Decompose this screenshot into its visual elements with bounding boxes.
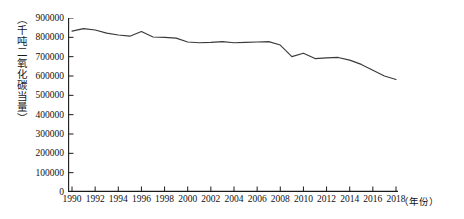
x-tick-label: 2010	[294, 194, 313, 204]
x-tick-label: 2008	[271, 194, 290, 204]
x-tick-label: 2016	[363, 194, 382, 204]
y-tick-label: 700000	[36, 52, 65, 62]
x-tick-label: 2004	[225, 194, 244, 204]
x-tick-label: 2002	[201, 194, 220, 204]
y-axis-ticks	[69, 18, 74, 173]
axis-lines	[69, 18, 398, 191]
x-axis-tick-labels: 1990199219941996199820002002200420062008…	[0, 194, 464, 210]
chart-svg	[68, 18, 398, 192]
x-tick-label: 1994	[109, 194, 128, 204]
y-tick-label: 500000	[36, 90, 65, 100]
y-tick-label: 300000	[36, 129, 65, 139]
x-axis-title: （年份）	[399, 194, 439, 208]
y-tick-label: 400000	[36, 110, 65, 120]
x-tick-label: 2000	[178, 194, 197, 204]
y-tick-label: 900000	[36, 13, 65, 23]
y-tick-label: 800000	[36, 32, 65, 42]
y-tick-label: 100000	[36, 168, 65, 178]
y-axis-tick-labels: 0100000200000300000400000500000600000700…	[0, 18, 64, 192]
x-tick-label: 2012	[317, 194, 336, 204]
x-tick-label: 1992	[86, 194, 105, 204]
chart-container: （千吨二氧化碳当量） 01000002000003000004000005000…	[0, 0, 464, 219]
y-tick-label: 200000	[36, 148, 65, 158]
x-tick-label: 2006	[248, 194, 267, 204]
y-tick-label: 600000	[36, 71, 65, 81]
x-tick-label: 2014	[340, 194, 359, 204]
x-tick-label: 1998	[155, 194, 174, 204]
x-tick-label: 1996	[132, 194, 151, 204]
data-line-series-0	[72, 29, 396, 80]
plot-area	[68, 18, 398, 192]
x-axis-ticks	[72, 187, 396, 192]
x-tick-label: 1990	[63, 194, 82, 204]
